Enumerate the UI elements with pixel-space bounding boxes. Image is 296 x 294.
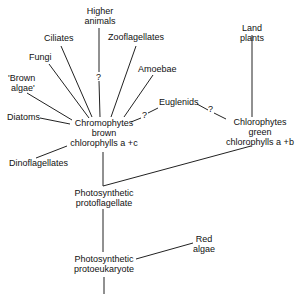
node-protoeukaryote: Photosynthetic protoeukaryote — [68, 254, 140, 274]
node-amoebae: Amoebae — [138, 64, 177, 74]
node-euglenids: Euglenids — [159, 97, 199, 107]
edge-amoebae — [124, 75, 153, 117]
node-diatoms: Diatoms — [7, 112, 40, 122]
label-line: chlorophylls a +b — [222, 137, 296, 147]
edge-ciliates — [61, 46, 92, 117]
label-line: Higher — [80, 6, 120, 16]
node-fungi: Fungi — [29, 52, 52, 62]
label-line: algae' — [8, 83, 35, 93]
node-protoflagellate: Photosynthetic protoflagellate — [66, 188, 142, 208]
node-brown-algae: 'Brown algae' — [8, 73, 35, 93]
label-line: Red — [192, 234, 216, 244]
label-line: Land — [233, 23, 271, 33]
label-line: brown — [66, 128, 142, 138]
label-line: 'Brown — [8, 73, 35, 83]
label-line: plants — [233, 33, 271, 43]
label-line: algae — [192, 244, 216, 254]
label-line: Photosynthetic — [68, 254, 140, 264]
label-line: green — [222, 127, 296, 137]
question-mark-higher-animals: ? — [96, 72, 101, 82]
edge-higher-animals-lower — [99, 81, 100, 117]
label-line: protoeukaryote — [68, 264, 140, 274]
node-dinoflagellates: Dinoflagellates — [9, 158, 68, 168]
label-line: chlorophylls a +c — [66, 138, 142, 148]
edge-q-euglenids — [148, 108, 158, 113]
question-mark-chromo-euglenids: ? — [142, 110, 147, 120]
label-line: Chlorophytes — [222, 117, 296, 127]
edge-red-algae — [136, 243, 193, 259]
tree-edges — [0, 0, 296, 294]
edge-dinoflagellates — [36, 146, 67, 158]
label-line: animals — [80, 16, 120, 26]
question-mark-euglenids-chloro: ? — [208, 104, 213, 114]
node-chlorophytes: Chlorophytes green chlorophylls a +b — [222, 117, 296, 147]
node-zooflagellates: Zooflagellates — [108, 32, 164, 42]
label-line: Chromophytes — [66, 118, 142, 128]
node-ciliates: Ciliates — [44, 33, 74, 43]
node-chromophytes: Chromophytes brown chlorophylls a +c — [66, 118, 142, 148]
node-red-algae: Red algae — [192, 234, 216, 254]
label-line: Photosynthetic — [66, 188, 142, 198]
node-land-plants: Land plants — [233, 23, 271, 43]
label-line: protoflagellate — [66, 198, 142, 208]
edge-chloro-protoflagellate — [103, 146, 251, 186]
edge-zooflagellates — [111, 46, 136, 117]
node-higher-animals: Higher animals — [80, 6, 120, 26]
